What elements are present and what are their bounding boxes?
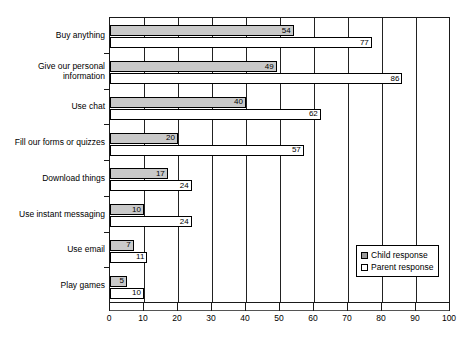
legend-item-parent: Parent response [361,261,433,273]
y-axis-tick [104,267,109,268]
x-axis-tick [245,303,246,311]
bar-value-label: 10 [132,206,141,214]
bar-value-label: 49 [265,63,274,71]
bar-child: 17 [110,168,168,179]
bar-value-label: 77 [360,39,369,47]
bar-value-label: 24 [180,218,189,226]
bar-child: 54 [110,25,294,36]
bar-value-label: 17 [156,170,165,178]
x-axis-tick-label: 70 [334,313,360,323]
y-axis-tick [104,160,109,161]
bar-value-label: 86 [390,75,399,83]
x-axis-tick [279,303,280,311]
y-axis-category-label: Give our personal information [0,61,105,81]
bar-value-label: 10 [132,289,141,297]
bar-parent: 77 [110,37,372,48]
y-axis-tick [104,124,109,125]
bar-child: 7 [110,240,134,251]
y-axis-category-label: Use email [0,244,105,254]
x-axis-tick [449,303,450,311]
bar-child: 5 [110,276,127,287]
x-axis-tick-label: 0 [96,313,122,323]
legend-swatch-parent-icon [361,264,368,271]
bar-parent: 24 [110,180,192,191]
x-axis-tick-label: 60 [300,313,326,323]
x-axis-tick-label: 50 [266,313,292,323]
bar-value-label: 11 [136,253,144,261]
y-axis-category-label: Fill our forms or quizzes [0,137,105,147]
y-axis-category-label: Buy anything [0,30,105,40]
bar-parent: 24 [110,216,192,227]
bar-child: 49 [110,61,277,72]
bar-value-label: 54 [282,27,291,35]
legend-item-child: Child response [361,249,433,261]
bar-parent: 57 [110,145,304,156]
y-axis-category-label: Use chat [0,101,105,111]
bar-value-label: 5 [120,277,124,285]
bar-value-label: 62 [309,110,318,118]
x-axis-tick [177,303,178,311]
x-axis-tick-label: 90 [402,313,428,323]
x-axis-tick-label: 100 [436,313,462,323]
x-axis-tick [313,303,314,311]
y-axis-tick [104,89,109,90]
bar-parent: 10 [110,288,144,299]
bar-child: 40 [110,97,246,108]
x-axis-tick-label: 40 [232,313,258,323]
bar-value-label: 24 [180,182,189,190]
bar-value-label: 20 [166,134,175,142]
x-axis-tick [143,303,144,311]
bar-chart: 547749864062205717241024711510 Buy anyth… [0,0,471,340]
x-axis-tick [211,303,212,311]
legend-label-child: Child response [371,251,428,260]
y-axis-tick [104,232,109,233]
x-axis-tick [415,303,416,311]
gridline [280,18,281,302]
x-axis-tick-label: 80 [368,313,394,323]
x-axis-tick [381,303,382,311]
bar-parent: 62 [110,109,321,120]
bar-value-label: 57 [292,146,301,154]
gridline [348,18,349,302]
y-axis-category-label: Download things [0,173,105,183]
bar-value-label: 40 [234,98,243,106]
bar-child: 20 [110,133,178,144]
y-axis-tick [104,53,109,54]
y-axis-tick [104,196,109,197]
gridline [314,18,315,302]
y-axis-category-label: Play games [0,280,105,290]
bar-parent: 86 [110,73,402,84]
x-axis-tick [347,303,348,311]
legend-label-parent: Parent response [371,263,433,272]
x-axis-tick-label: 10 [130,313,156,323]
bar-child: 10 [110,204,144,215]
chart-legend: Child response Parent response [356,245,439,277]
x-axis-tick-label: 20 [164,313,190,323]
legend-swatch-child-icon [361,252,368,259]
bar-parent: 11 [110,252,147,263]
x-axis-tick [109,303,110,311]
bar-value-label: 7 [126,241,130,249]
x-axis-tick-label: 30 [198,313,224,323]
y-axis-category-label: Use instant messaging [0,209,105,219]
